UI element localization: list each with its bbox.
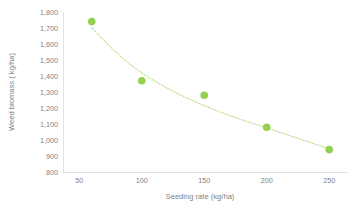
x-tick-label: 150 (198, 176, 210, 185)
y-tick-label: 1,000 (40, 136, 58, 145)
y-axis-title: Weed biomass ( kg/ha) (7, 53, 16, 131)
y-tick-label: 1,500 (40, 56, 58, 65)
y-tick-label: 1,700 (40, 24, 58, 33)
data-point (325, 146, 333, 154)
y-tick-label: 900 (46, 152, 58, 161)
x-tick-labels: 50100150200250 (75, 176, 335, 185)
y-tick-labels: 8009001,0001,1001,2001,3001,4001,5001,60… (40, 8, 58, 177)
data-point (88, 18, 96, 26)
y-tick-label: 1,100 (40, 120, 58, 129)
chart-container: 8009001,0001,1001,2001,3001,4001,5001,60… (0, 0, 354, 213)
data-point (263, 123, 271, 131)
y-tick-label: 1,200 (40, 104, 58, 113)
plot-area: 8009001,0001,1001,2001,3001,4001,5001,60… (40, 8, 348, 185)
chart-canvas: 8009001,0001,1001,2001,3001,4001,5001,60… (0, 0, 354, 213)
x-tick-label: 100 (136, 176, 148, 185)
data-point (138, 77, 146, 85)
data-point (200, 91, 208, 99)
trendline (92, 28, 330, 149)
data-markers (88, 18, 333, 154)
y-tick-label: 1,300 (40, 88, 58, 97)
y-tick-label: 1,800 (40, 8, 58, 17)
y-tick-label: 1,400 (40, 72, 58, 81)
x-tick-label: 50 (75, 176, 83, 185)
y-tick-label: 1,600 (40, 40, 58, 49)
x-tick-label: 250 (323, 176, 335, 185)
x-axis-title: Seeding rate (kg/ha) (166, 192, 235, 201)
y-tick-label: 800 (46, 168, 58, 177)
x-tick-label: 200 (261, 176, 273, 185)
